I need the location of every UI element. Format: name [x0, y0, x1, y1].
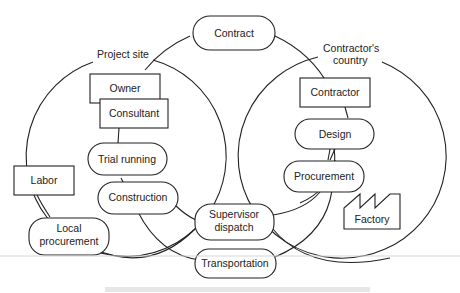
svg-text:Local: Local: [56, 222, 81, 234]
design-node: Design: [295, 119, 374, 149]
svg-text:Contract: Contract: [214, 27, 254, 39]
svg-text:Construction: Construction: [109, 191, 168, 203]
contractors-country-label-line1: Contractor's: [323, 42, 379, 54]
trial-running-node: Trial running: [88, 143, 167, 175]
labor-node: Labor: [14, 166, 74, 195]
factory-label: Factory: [354, 213, 390, 225]
svg-text:Consultant: Consultant: [109, 107, 159, 119]
caption-faded: [105, 287, 370, 292]
svg-text:Procurement: Procurement: [294, 170, 354, 182]
svg-text:Design: Design: [319, 128, 352, 140]
svg-text:Transportation: Transportation: [201, 257, 268, 269]
procurement-node: Procurement: [284, 161, 364, 192]
svg-text:Supervisor: Supervisor: [209, 208, 260, 220]
contractor-node: Contractor: [300, 78, 370, 107]
svg-text:Labor: Labor: [31, 174, 58, 186]
project-site-label: Project site: [97, 48, 149, 60]
local-procurement-node: Local procurement: [29, 218, 109, 255]
contract-node: Contract: [193, 16, 275, 50]
svg-text:procurement: procurement: [40, 235, 99, 247]
svg-text:Trial running: Trial running: [98, 153, 156, 165]
supervisor-dispatch-node: Supervisor dispatch: [195, 204, 274, 240]
work-locations-diagram: Project site Contractor's country Contra…: [0, 0, 460, 293]
svg-text:Contractor: Contractor: [310, 86, 360, 98]
construction-node: Construction: [98, 182, 178, 214]
contractors-country-label-line2: country: [333, 54, 368, 66]
transportation-node: Transportation: [195, 249, 276, 278]
consultant-node: Consultant: [100, 99, 168, 128]
svg-text:Owner: Owner: [110, 82, 141, 94]
svg-text:dispatch: dispatch: [214, 221, 253, 233]
